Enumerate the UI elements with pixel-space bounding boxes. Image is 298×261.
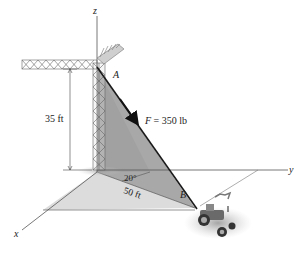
y-axis-label: y <box>288 164 294 175</box>
x-axis-label: x <box>13 228 19 239</box>
diagram-canvas: z y x A B F = 350 lb 35 ft 20° 50 ft <box>0 0 298 261</box>
crane-boom <box>22 60 97 69</box>
height-dimension <box>63 69 92 170</box>
line-yaxis-to-B <box>200 170 258 206</box>
force-value: = 350 lb <box>151 115 187 126</box>
crane-tower <box>93 63 105 170</box>
z-axis-label: z <box>92 5 97 16</box>
force-label: F = 350 lb <box>144 115 187 126</box>
height-label: 35 ft <box>45 113 64 124</box>
point-A-label: A <box>112 69 120 80</box>
crane-jib <box>97 44 124 64</box>
point-B-label: B <box>180 189 186 200</box>
angle-label: 20° <box>124 173 137 183</box>
